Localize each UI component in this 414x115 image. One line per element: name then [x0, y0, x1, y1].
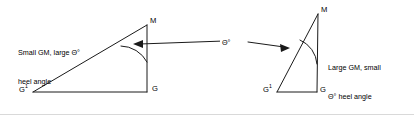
right-triangle-vertical-GM	[317, 14, 318, 92]
stability-diagram: Small GM, large Θ° heel angle Large GM, …	[0, 0, 414, 115]
connector-left-segment	[140, 41, 224, 44]
right-vertex-label-m: M	[321, 5, 327, 15]
right-caption-line2: Θ° heel angle	[328, 92, 381, 102]
left-vertex-label-m: M	[150, 16, 156, 26]
right-vertex-label-g1: G1	[263, 82, 272, 94]
left-vertex-label-g1: G1	[19, 82, 28, 94]
connector-right-segment	[248, 42, 284, 47]
right-vertex-g1-superscript: 1	[269, 83, 272, 89]
right-vertex-label-g: G	[320, 85, 326, 95]
left-vertex-g1-superscript: 1	[25, 83, 28, 89]
right-caption: Large GM, small Θ° heel angle	[328, 44, 381, 115]
connector-theta-label: Θ°	[220, 38, 232, 48]
left-vertex-label-g: G	[152, 84, 158, 94]
connector-right-arrowhead-icon	[280, 44, 290, 52]
left-heel-angle-arc	[121, 46, 147, 62]
right-caption-line1: Large GM, small	[328, 63, 381, 73]
left-caption-line1: Small GM, large Θ°	[18, 48, 80, 58]
connector-left-arrowhead-icon	[133, 40, 143, 48]
right-triangle-hypotenuse-G1M	[277, 14, 318, 92]
